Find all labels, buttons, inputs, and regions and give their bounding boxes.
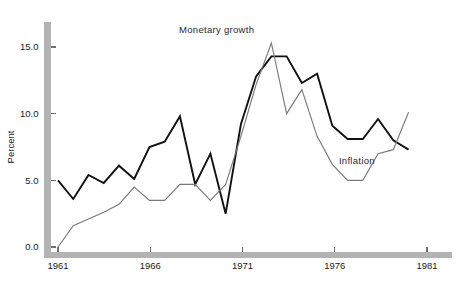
y-axis-spine — [44, 22, 51, 258]
chart-background — [0, 0, 460, 284]
x-tick-label-1971: 1971 — [232, 260, 253, 271]
y-tick-label-10.0: 10.0 — [20, 108, 39, 119]
y-axis-title: Percent — [5, 130, 16, 163]
monetary-growth-inflation-line-chart: 0.05.010.015.0 19611966197119761981 Perc… — [0, 0, 460, 284]
chart-figure: 0.05.010.015.0 19611966197119761981 Perc… — [0, 0, 460, 284]
x-tick-label-1981: 1981 — [416, 260, 437, 271]
x-axis-spine — [44, 252, 453, 258]
y-tick-label-0.0: 0.0 — [25, 241, 38, 252]
x-tick-label-1961: 1961 — [47, 260, 68, 271]
y-tick-label-5.0: 5.0 — [25, 175, 38, 186]
x-tick-label-1976: 1976 — [324, 260, 345, 271]
series-label-inflation: Inflation — [339, 155, 375, 166]
x-tick-label-1966: 1966 — [140, 260, 161, 271]
series-label-monetary-growth: Monetary growth — [179, 24, 254, 35]
y-tick-label-15.0: 15.0 — [20, 41, 39, 52]
